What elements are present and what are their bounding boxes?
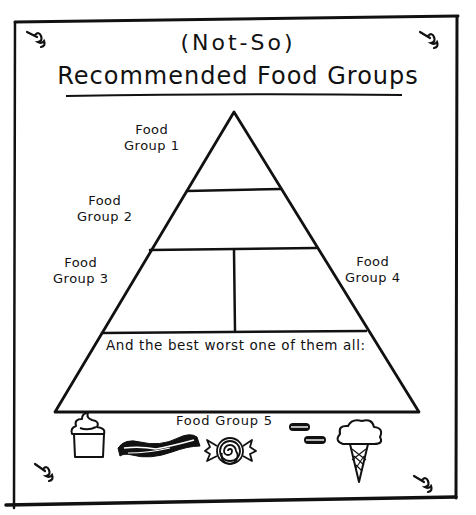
worksheet: (Not-So) Recommended Food Groups Food Gr… bbox=[0, 0, 476, 515]
label-line: Food bbox=[77, 193, 132, 209]
pyramid-divider-3 bbox=[102, 331, 366, 333]
pyramid-divider-vertical bbox=[234, 250, 235, 331]
label-food-group-1: Food Group 1 bbox=[124, 122, 179, 154]
candy-icon bbox=[205, 438, 256, 464]
label-line: Food bbox=[124, 122, 179, 138]
label-food-group-5: Food Group 5 bbox=[176, 413, 273, 428]
label-food-group-4: Food Group 4 bbox=[345, 254, 400, 286]
cupcake-icon bbox=[72, 413, 105, 457]
page-title: Recommended Food Groups bbox=[0, 62, 476, 90]
pushpin-icon-bottom-left bbox=[35, 464, 53, 481]
ice-cream-cone-icon bbox=[338, 420, 382, 482]
pushpin-icon-bottom-right bbox=[414, 476, 432, 492]
pyramid-base-caption: And the best worst one of them all: bbox=[106, 337, 366, 353]
label-line: Food bbox=[53, 255, 108, 271]
label-line: Food bbox=[345, 254, 400, 270]
pyramid-divider-1 bbox=[187, 189, 281, 191]
cookies-icon bbox=[289, 423, 326, 444]
label-food-group-2: Food Group 2 bbox=[77, 193, 132, 225]
label-line: Group 3 bbox=[53, 271, 108, 287]
label-line: Group 2 bbox=[77, 209, 132, 225]
title-underline bbox=[66, 94, 402, 96]
label-food-group-3: Food Group 3 bbox=[53, 255, 108, 287]
label-line: Group 4 bbox=[345, 270, 400, 286]
label-line: Group 1 bbox=[124, 138, 179, 154]
page-subtitle: (Not-So) bbox=[0, 30, 476, 55]
bacon-icon bbox=[118, 435, 200, 457]
